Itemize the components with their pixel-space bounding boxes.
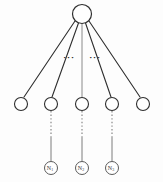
level1-node-5[interactable] <box>137 98 150 111</box>
root-edge-group <box>24 21 140 97</box>
vertical-connector-group <box>51 111 112 161</box>
leaf-node-n3[interactable]: N3 <box>106 162 119 175</box>
ellipsis-left: ··· <box>63 52 74 62</box>
level1-node-group <box>15 98 150 111</box>
root-node[interactable] <box>73 5 92 24</box>
level1-node-2[interactable] <box>45 98 58 111</box>
ellipsis-right: ··· <box>89 52 100 62</box>
leaf-node-n1[interactable]: N1 <box>45 162 58 175</box>
tree-diagram: ··· ··· N1 <box>0 0 163 182</box>
diagram-canvas: ··· ··· N1 <box>0 0 163 182</box>
leaf-node-n2[interactable]: N2 <box>76 162 89 175</box>
leaf-node-group: N1 N2 N3 <box>45 162 119 175</box>
level1-node-3[interactable] <box>76 98 89 111</box>
level1-node-1[interactable] <box>15 98 28 111</box>
level1-node-4[interactable] <box>106 98 119 111</box>
